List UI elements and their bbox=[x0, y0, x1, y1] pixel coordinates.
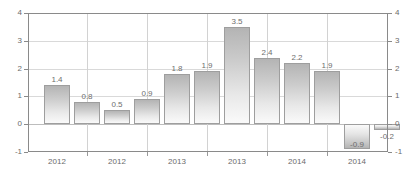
ytick-label-right-4: 4 bbox=[395, 8, 399, 17]
ytick-mark-right-3 bbox=[388, 41, 392, 42]
ytick-label-right-minus1: -1 bbox=[395, 147, 402, 156]
bar-value-label-8: 2.4 bbox=[261, 48, 272, 57]
ytick-mark-right-4 bbox=[388, 13, 392, 14]
bar-value-label-5: 1.8 bbox=[171, 64, 182, 73]
x-axis bbox=[28, 151, 388, 152]
xtick-label-4: 2013 bbox=[228, 157, 246, 167]
ytick-mark-right-1 bbox=[388, 96, 392, 97]
y-axis-right bbox=[387, 13, 388, 152]
gridline-y-0 bbox=[28, 124, 388, 125]
xtick-mark-1 bbox=[87, 152, 88, 156]
bar-2 bbox=[74, 102, 100, 124]
xtick-mark-3 bbox=[207, 152, 208, 156]
ytick-label-right-0: 0 bbox=[395, 119, 399, 128]
bar-6 bbox=[194, 71, 220, 124]
ytick-label-left-1: 1 bbox=[18, 91, 22, 100]
bar-value-label-7: 3.5 bbox=[231, 17, 242, 26]
gridline-y-3 bbox=[28, 41, 388, 42]
ytick-mark-right-2 bbox=[388, 69, 392, 70]
bar-chart: 1.4 0.8 0.5 0.9 1.8 1.9 3.5 2.4 2.2 1.9 … bbox=[0, 0, 414, 174]
xtick-mark-2 bbox=[147, 152, 148, 156]
gridline-x-1 bbox=[87, 13, 88, 152]
bar-1 bbox=[44, 85, 70, 124]
xtick-mark-4 bbox=[267, 152, 268, 156]
xtick-label-2: 2012 bbox=[108, 157, 126, 167]
bar-3 bbox=[104, 110, 130, 124]
ytick-label-right-3: 3 bbox=[395, 36, 399, 45]
bar-10 bbox=[314, 71, 340, 124]
xtick-label-6: 2014 bbox=[348, 157, 366, 167]
bar-value-label-6: 1.9 bbox=[201, 61, 212, 70]
bar-value-label-11: -0.9 bbox=[350, 140, 364, 149]
bar-value-label-9: 2.2 bbox=[291, 53, 302, 62]
bar-5 bbox=[164, 74, 190, 124]
ytick-label-left-3: 3 bbox=[18, 36, 22, 45]
bar-value-label-1: 1.4 bbox=[51, 75, 62, 84]
ytick-label-right-2: 2 bbox=[395, 64, 399, 73]
plot-area: 1.4 0.8 0.5 0.9 1.8 1.9 3.5 2.4 2.2 1.9 … bbox=[28, 13, 388, 152]
ytick-label-left-2: 2 bbox=[18, 64, 22, 73]
ytick-label-left-0: 0 bbox=[18, 119, 22, 128]
bar-value-label-4: 0.9 bbox=[141, 89, 152, 98]
ytick-mark-right-minus1 bbox=[388, 152, 392, 153]
bar-9 bbox=[284, 63, 310, 124]
bar-4 bbox=[134, 99, 160, 124]
ytick-label-right-1: 1 bbox=[395, 91, 399, 100]
bar-8 bbox=[254, 58, 280, 125]
xtick-label-1: 2012 bbox=[48, 157, 66, 167]
bar-7 bbox=[224, 27, 250, 124]
ytick-label-left-minus1: -1 bbox=[15, 147, 22, 156]
ytick-mark-right-0 bbox=[388, 124, 392, 125]
bar-value-label-2: 0.8 bbox=[81, 92, 92, 101]
ytick-label-left-4: 4 bbox=[18, 8, 22, 17]
bar-value-label-3: 0.5 bbox=[111, 100, 122, 109]
axis-top bbox=[28, 13, 388, 14]
y-axis-left bbox=[28, 13, 29, 152]
xtick-label-3: 2013 bbox=[168, 157, 186, 167]
xtick-label-5: 2014 bbox=[288, 157, 306, 167]
xtick-mark-5 bbox=[327, 152, 328, 156]
bar-value-label-10: 1.9 bbox=[321, 61, 332, 70]
gridline-x-2 bbox=[147, 13, 148, 152]
